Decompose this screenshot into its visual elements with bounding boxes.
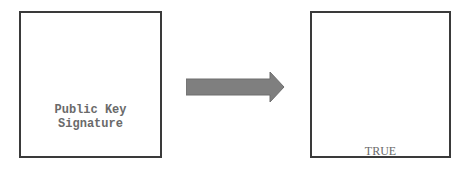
input-box: Public Key Signature	[19, 11, 162, 158]
input-label-line-1: Public Key	[21, 103, 160, 117]
input-label-line-2: Signature	[21, 117, 160, 131]
output-box: TRUE	[310, 11, 451, 158]
right-arrow-icon	[186, 71, 286, 103]
input-label: Public Key Signature	[21, 103, 160, 131]
output-label: TRUE	[312, 144, 449, 158]
